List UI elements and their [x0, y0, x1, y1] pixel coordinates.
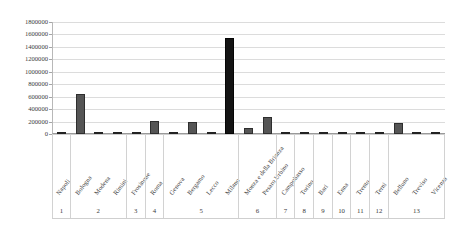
- group-cell: 6: [239, 134, 276, 218]
- group-number: 8: [295, 207, 313, 215]
- group-cell: 4: [146, 134, 165, 218]
- bars-layer: [52, 22, 445, 134]
- group-cell: 5: [164, 134, 239, 218]
- group-cell: 1: [52, 134, 71, 218]
- bar-chart: 1800000160000014000001200000100000080000…: [0, 0, 451, 236]
- group-number: 13: [389, 207, 444, 215]
- group-number: 4: [146, 207, 164, 215]
- y-axis-tick-label: 0: [6, 130, 48, 137]
- group-number: 9: [314, 207, 332, 215]
- y-axis-tick-label: 200000: [6, 118, 48, 125]
- group-number: 10: [333, 207, 351, 215]
- group-cell: 8: [295, 134, 314, 218]
- group-cell: 12: [370, 134, 389, 218]
- bar: [188, 122, 197, 134]
- group-number: 2: [71, 207, 126, 215]
- bar: [76, 94, 85, 134]
- group-cell: 9: [314, 134, 333, 218]
- group-number: 1: [53, 207, 70, 215]
- bar: [263, 117, 272, 134]
- y-axis-tick-label: 800000: [6, 80, 48, 87]
- group-number: 12: [370, 207, 388, 215]
- y-axis-tick-label: 1800000: [6, 18, 48, 25]
- bar: [150, 121, 159, 134]
- group-band: 12345678910111213: [52, 134, 445, 218]
- group-number: 7: [277, 207, 295, 215]
- y-axis-tick-label: 1400000: [6, 43, 48, 50]
- group-cell: 3: [127, 134, 146, 218]
- y-axis-tick-label: 1200000: [6, 55, 48, 62]
- group-number: 3: [127, 207, 145, 215]
- group-number: 5: [164, 207, 238, 215]
- bar: [225, 38, 234, 134]
- group-cell: 11: [351, 134, 370, 218]
- group-number: 6: [239, 207, 275, 215]
- y-axis-tick-label: 1600000: [6, 30, 48, 37]
- group-number: 11: [351, 207, 369, 215]
- group-band-bottom-border: [52, 218, 445, 219]
- y-axis-tick-label: 600000: [6, 93, 48, 100]
- group-cell: 10: [333, 134, 352, 218]
- y-axis-tick-label: 400000: [6, 105, 48, 112]
- group-cell: 7: [277, 134, 296, 218]
- group-cell: 13: [389, 134, 445, 218]
- y-axis-tick-label: 1000000: [6, 68, 48, 75]
- bar: [394, 123, 403, 135]
- group-cell: 2: [71, 134, 127, 218]
